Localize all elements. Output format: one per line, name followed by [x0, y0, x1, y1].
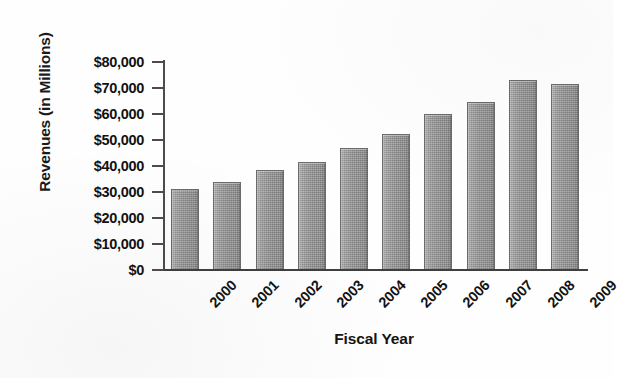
bar: [298, 162, 326, 270]
y-axis-tick-mark: [152, 165, 164, 167]
y-axis-tick-mark: [152, 87, 164, 89]
x-axis-tick-label: 2002: [291, 277, 325, 311]
x-axis-tick-label: 2001: [249, 277, 283, 311]
x-axis-tick-label: 2003: [333, 277, 367, 311]
y-axis-tick-mark: [152, 269, 164, 271]
plot-area: [163, 62, 585, 270]
y-axis-tick-mark: [152, 217, 164, 219]
bar: [171, 189, 199, 270]
bar: [340, 148, 368, 270]
x-axis-tick-label: 2004: [375, 277, 409, 311]
y-axis-tick-label: $10,000: [52, 236, 144, 252]
x-axis-tick-label: 2006: [460, 277, 494, 311]
x-axis-tick-label: 2009: [586, 277, 620, 311]
bar: [256, 170, 284, 270]
y-axis-tick-label: $70,000: [52, 80, 144, 96]
x-axis-title: Fiscal Year: [163, 330, 585, 348]
x-axis-tick-label: 2007: [502, 277, 536, 311]
bar: [424, 114, 452, 270]
bar: [467, 102, 495, 270]
y-axis-tick-mark: [152, 113, 164, 115]
bar: [213, 182, 241, 270]
y-axis-tick-label: $60,000: [52, 106, 144, 122]
y-axis-tick-label: $30,000: [52, 184, 144, 200]
y-axis-tick-label: $40,000: [52, 158, 144, 174]
y-axis-tick-label: $80,000: [52, 54, 144, 70]
y-axis-tick-mark: [152, 61, 164, 63]
x-axis-tick-label: 2000: [206, 277, 240, 311]
bar: [509, 80, 537, 270]
x-axis-tick-label: 2008: [544, 277, 578, 311]
y-axis-tick-mark: [152, 243, 164, 245]
y-axis-tick-label-group: $0$10,000$20,000$30,000$40,000$50,000$60…: [52, 52, 144, 280]
y-axis-tick-label: $50,000: [52, 132, 144, 148]
x-axis-tick-label: 2005: [417, 277, 451, 311]
y-axis-tick-mark: [152, 191, 164, 193]
y-axis-tick-label: $20,000: [52, 210, 144, 226]
y-axis-tick-mark: [152, 139, 164, 141]
bar: [382, 134, 410, 271]
bar: [551, 84, 579, 270]
y-axis-tick-label: $0: [52, 262, 144, 278]
x-axis-tick-label-group: 2000200120022003200420052006200720082009: [163, 271, 585, 327]
